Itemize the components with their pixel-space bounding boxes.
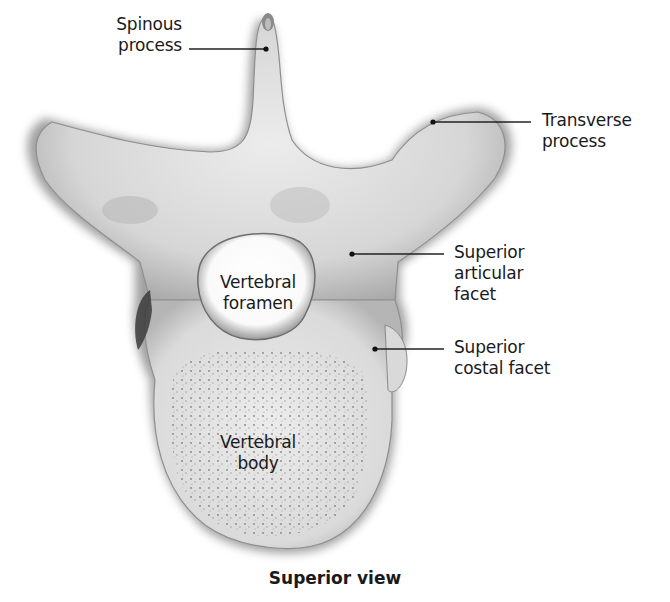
label-line: process [70, 35, 182, 56]
label-line: Vertebral [200, 432, 316, 453]
label-line: Superior [454, 337, 594, 358]
label-vertebral-foramen: Vertebral foramen [200, 272, 316, 314]
label-line: costal facet [454, 358, 594, 379]
view-caption: Superior view [0, 568, 670, 588]
label-line: Vertebral [200, 272, 316, 293]
label-line: facet [454, 284, 574, 305]
label-superior-costal-facet: Superior costal facet [454, 337, 594, 379]
label-transverse-process: Transverse process [542, 110, 670, 152]
label-line: Transverse [542, 110, 670, 131]
label-line: articular [454, 263, 574, 284]
label-spinous-process: Spinous process [70, 14, 182, 56]
label-line: Spinous [70, 14, 182, 35]
label-line: process [542, 131, 670, 152]
label-superior-articular-facet: Superior articular facet [454, 242, 574, 305]
label-vertebral-body: Vertebral body [200, 432, 316, 474]
label-line: foramen [200, 293, 316, 314]
vertebra-diagram: Spinous process Transverse process Super… [0, 0, 670, 602]
label-line: body [200, 453, 316, 474]
label-line: Superior [454, 242, 574, 263]
